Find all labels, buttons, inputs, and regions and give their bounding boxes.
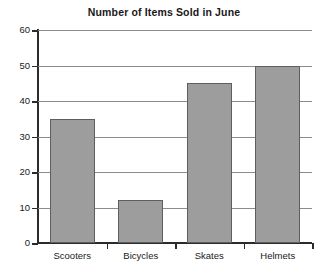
y-axis-tick-label: 0 bbox=[4, 237, 30, 248]
x-axis-category-labels: ScootersBicyclesSkatesHelmets bbox=[38, 250, 312, 268]
y-axis-tick bbox=[32, 101, 38, 103]
x-axis-tick bbox=[175, 243, 177, 249]
y-axis-tick bbox=[32, 243, 38, 245]
y-axis-tick-label: 40 bbox=[4, 95, 30, 106]
bar-scooters[interactable] bbox=[50, 119, 95, 243]
bar-chart-figure: Number of Items Sold in June 01020304050… bbox=[0, 0, 328, 271]
y-axis-tick-label: 10 bbox=[4, 202, 30, 213]
x-axis-tick bbox=[244, 243, 246, 249]
x-axis-label-helmets: Helmets bbox=[244, 250, 313, 261]
plot-area bbox=[38, 30, 312, 243]
y-axis-tick-labels: 0102030405060 bbox=[0, 0, 30, 271]
y-axis-tick-label: 20 bbox=[4, 166, 30, 177]
y-axis-tick bbox=[32, 137, 38, 139]
y-axis-tick bbox=[32, 30, 38, 32]
x-axis-label-skates: Skates bbox=[175, 250, 244, 261]
bar-helmets[interactable] bbox=[255, 66, 300, 244]
y-axis-tick bbox=[32, 172, 38, 174]
y-axis-tick-label: 50 bbox=[4, 60, 30, 71]
x-axis-tick bbox=[312, 243, 314, 249]
x-axis-label-scooters: Scooters bbox=[38, 250, 107, 261]
y-axis-tick-label: 60 bbox=[4, 24, 30, 35]
y-axis-tick-label: 30 bbox=[4, 131, 30, 142]
chart-title: Number of Items Sold in June bbox=[0, 6, 328, 18]
y-axis-tick bbox=[32, 66, 38, 68]
bar-bicycles[interactable] bbox=[118, 200, 163, 243]
x-axis-tick bbox=[107, 243, 109, 249]
x-axis-label-bicycles: Bicycles bbox=[107, 250, 176, 261]
bar-skates[interactable] bbox=[187, 83, 232, 243]
gridline bbox=[38, 30, 312, 31]
y-axis-tick bbox=[32, 208, 38, 210]
